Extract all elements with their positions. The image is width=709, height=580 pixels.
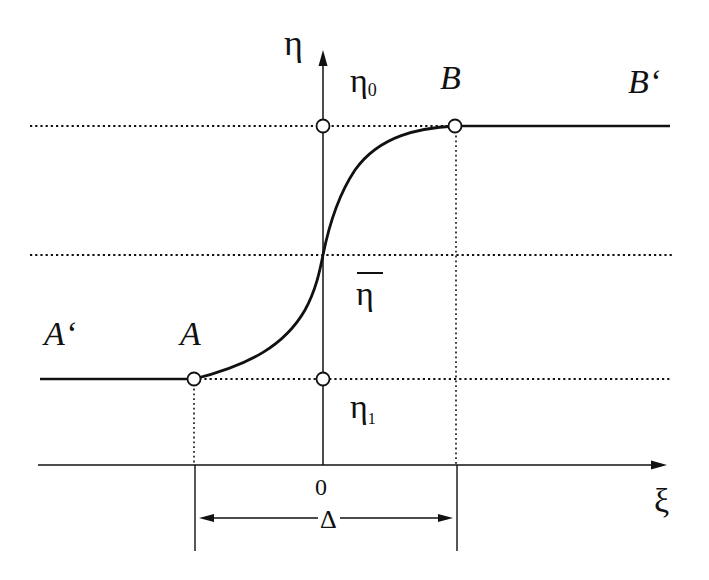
eta0-axis-marker bbox=[317, 120, 330, 133]
point-B-label: B bbox=[440, 59, 461, 96]
xi-axis-label: ξ bbox=[654, 482, 669, 519]
eta-axis-arrowhead-icon bbox=[319, 50, 328, 66]
point-B-marker bbox=[449, 120, 462, 133]
delta-arrow-left-head-icon bbox=[199, 514, 214, 522]
delta-label: Δ bbox=[320, 505, 337, 534]
eta1-axis-marker bbox=[317, 373, 330, 386]
point-A-marker bbox=[188, 373, 201, 386]
eta1-label: η1 bbox=[350, 388, 376, 427]
eta0-label: η0 bbox=[350, 62, 377, 100]
sigmoid-curve bbox=[194, 126, 455, 379]
point-B-prime-label: B‘ bbox=[628, 63, 660, 100]
diagram-canvas: η η0 B B‘ η A‘ A η1 0 Δ ξ bbox=[0, 0, 709, 580]
xi-axis-arrowhead-icon bbox=[651, 461, 667, 470]
eta-bar-label: η bbox=[356, 275, 374, 312]
eta-axis-label: η bbox=[284, 23, 303, 63]
point-A-prime-label: A‘ bbox=[42, 315, 76, 352]
origin-label: 0 bbox=[315, 474, 327, 500]
point-A-label: A bbox=[178, 315, 201, 352]
delta-arrow-right-head-icon bbox=[438, 514, 453, 522]
